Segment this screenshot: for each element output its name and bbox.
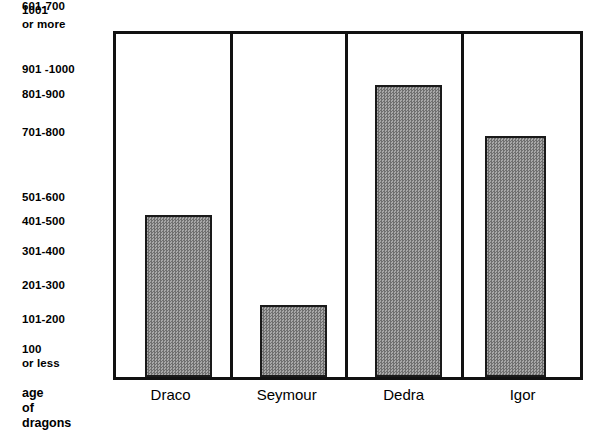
group-separator-1 [230,34,233,377]
bar-seymour [260,305,327,377]
plot-inner [116,34,580,377]
y-axis-label-101-200: 101-200 [22,313,65,327]
bar-dedra [375,85,442,377]
bar-chart: 1001or more 901 -1000 801-900 701-800 60… [0,0,597,447]
group-separator-3 [461,34,464,377]
y-axis-label-401-500: 401-500 [22,215,65,229]
bar-draco [145,215,212,377]
plot-area [113,31,583,380]
group-separator-2 [345,34,348,377]
x-axis-label-igor: Igor [462,386,583,403]
bar-igor [485,136,545,377]
y-axis-label-601-700: 601-700 [22,0,65,14]
y-axis-label-100-or-less: 100or less [22,343,60,370]
x-axis-label-dedra: Dedra [345,386,462,403]
y-axis-label-301-400: 301-400 [22,245,65,259]
y-axis-label-501-600: 501-600 [22,191,65,205]
y-axis-labels: 1001or more 901 -1000 801-900 701-800 60… [0,0,112,447]
y-axis-label-201-300: 201-300 [22,279,65,293]
x-axis-label-seymour: Seymour [228,386,345,403]
y-axis-title: ageofdragons [22,386,71,431]
x-axis-labels: Draco Seymour Dedra Igor [113,386,583,412]
y-axis-label-701-800: 701-800 [22,126,65,140]
y-axis-label-801-900: 801-900 [22,88,65,102]
x-axis-label-draco: Draco [113,386,228,403]
y-axis-label-901-1000: 901 -1000 [22,63,75,77]
